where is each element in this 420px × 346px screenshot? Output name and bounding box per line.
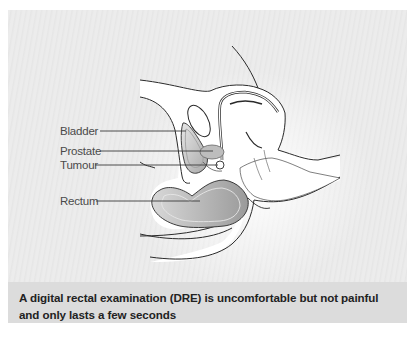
figure-caption: A digital rectal examination (DRE) is un… bbox=[8, 282, 407, 323]
label-bladder: Bladder bbox=[60, 125, 98, 137]
label-rectum: Rectum bbox=[60, 195, 98, 207]
label-tumour: Tumour bbox=[60, 159, 98, 171]
label-prostate: Prostate bbox=[60, 145, 101, 157]
